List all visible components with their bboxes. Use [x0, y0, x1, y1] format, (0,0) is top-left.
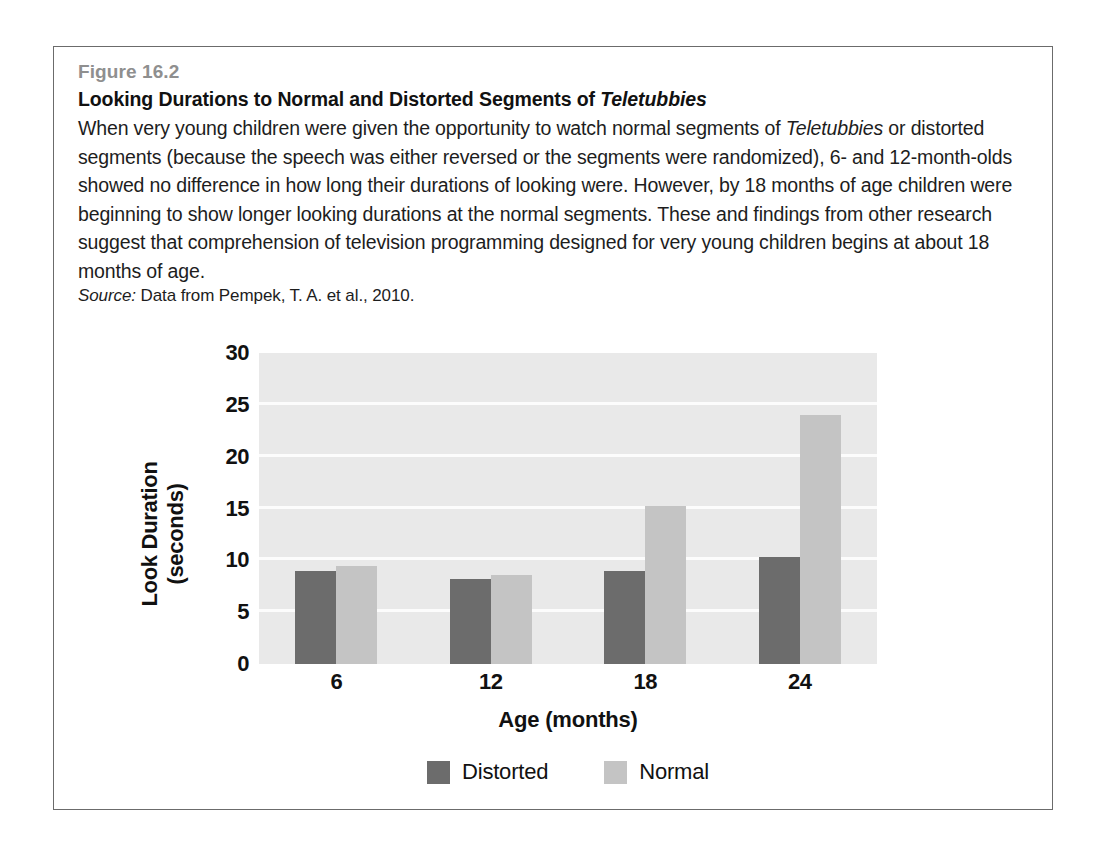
figure-source: Source: Data from Pempek, T. A. et al., …	[78, 286, 1028, 306]
chart-legend: DistortedNormal	[259, 759, 877, 785]
bar-chart: Look Duration (seconds) 051015202530 612…	[54, 309, 1054, 809]
figure-source-text: Data from Pempek, T. A. et al., 2010.	[136, 286, 414, 305]
bar-group-6-months	[295, 353, 377, 664]
bar-distorted-6	[295, 571, 336, 664]
legend-label: Normal	[639, 759, 709, 785]
bar-normal-6	[336, 566, 377, 664]
bar-group-18-months	[604, 353, 686, 664]
figure-title-italic-term: Teletubbies	[600, 88, 707, 110]
figure-title: Looking Durations to Normal and Distorte…	[78, 88, 1028, 111]
y-tick-label-0: 0	[203, 651, 249, 677]
y-tick-label-20: 20	[203, 444, 249, 470]
bar-group-24-months	[759, 353, 841, 664]
x-tick-label-12: 12	[441, 669, 541, 695]
figure-description-italic-term: Teletubbies	[786, 117, 883, 139]
figure-description: When very young children were given the …	[78, 114, 1028, 285]
bar-normal-12	[491, 575, 532, 664]
y-tick-label-25: 25	[203, 392, 249, 418]
figure-title-text: Looking Durations to Normal and Distorte…	[78, 88, 600, 110]
figure-number: Figure 16.2	[78, 61, 1028, 83]
y-axis-tick-labels: 051015202530	[197, 353, 249, 664]
bar-distorted-18	[604, 571, 645, 664]
y-tick-label-30: 30	[203, 340, 249, 366]
figure-description-part2: or distorted segments (because the speec…	[78, 117, 1012, 282]
bar-distorted-12	[450, 579, 491, 664]
figure-description-part1: When very young children were given the …	[78, 117, 786, 139]
legend-item-normal: Normal	[604, 759, 709, 785]
bar-group-12-months	[450, 353, 532, 664]
legend-item-distorted: Distorted	[427, 759, 548, 785]
figure-source-label: Source:	[78, 286, 136, 305]
y-tick-label-10: 10	[203, 547, 249, 573]
x-tick-label-24: 24	[750, 669, 850, 695]
figure-caption: Figure 16.2 Looking Durations to Normal …	[78, 61, 1028, 306]
bar-distorted-24	[759, 557, 800, 664]
bar-normal-24	[800, 415, 841, 664]
figure-container: Figure 16.2 Looking Durations to Normal …	[53, 46, 1053, 810]
x-axis-title: Age (months)	[259, 707, 877, 733]
legend-swatch-icon	[427, 761, 450, 784]
y-tick-label-15: 15	[203, 496, 249, 522]
x-tick-label-18: 18	[595, 669, 695, 695]
bar-normal-18	[645, 506, 686, 664]
plot-area	[259, 353, 877, 664]
y-axis-title: Look Duration (seconds)	[137, 414, 189, 654]
legend-swatch-icon	[604, 761, 627, 784]
x-tick-label-6: 6	[286, 669, 386, 695]
legend-label: Distorted	[462, 759, 548, 785]
x-axis-tick-labels: 6121824	[259, 669, 877, 703]
y-tick-label-5: 5	[203, 599, 249, 625]
